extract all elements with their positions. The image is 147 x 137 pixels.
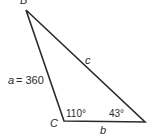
angle-label-a: 43° bbox=[109, 108, 124, 119]
side-label-c: c bbox=[85, 54, 91, 66]
angle-label-c: 110° bbox=[66, 108, 86, 119]
side-label-b: b bbox=[100, 124, 106, 136]
triangle-abc bbox=[26, 10, 145, 122]
triangle-diagram: B c a = 360 C 110° 43° b bbox=[0, 0, 147, 137]
side-label-a: a bbox=[8, 74, 14, 86]
side-value-a: = 360 bbox=[16, 74, 44, 86]
vertex-label-b: B bbox=[20, 0, 27, 6]
vertex-label-c: C bbox=[50, 117, 58, 129]
